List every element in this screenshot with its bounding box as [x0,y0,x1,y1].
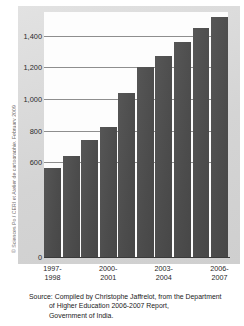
x-axis-line [44,257,230,258]
bar-series [44,6,228,257]
x-axis-tick: 2003-2004 [141,265,187,282]
source-line-3: Government of India. [29,311,241,320]
credit-strip: © Sciences Po / CERI et Atelier de carto… [0,0,16,326]
x-axis-tick-bottom: 1998 [30,274,76,283]
x-axis-tick: 2000-2001 [85,265,131,282]
source-line-2: of Higher Education 2006-2007 Report, [29,301,241,310]
x-axis-tick: 1997-1998 [30,265,76,282]
bar [193,28,210,257]
y-axis-tick-0: 0 [16,253,42,262]
bar [100,127,117,257]
bar [118,93,135,257]
bar [81,140,98,257]
y-axis-tick-1000: 1,000 [16,94,42,103]
bar [155,56,172,257]
y-axis-labels: 06008001,0001,2001,400 [18,6,42,264]
bar [211,17,228,257]
bar [137,67,154,257]
source-caption: Source: Compiled by Christophe Jaffrelot… [29,292,241,320]
chart-figure: © Sciences Po / CERI et Atelier de carto… [0,0,244,326]
y-axis-tick-800: 800 [16,126,42,135]
x-axis-tick-bottom: 2007 [197,274,243,283]
bar [44,168,61,257]
y-axis-tick-600: 600 [16,158,42,167]
x-axis-tick-bottom: 2001 [85,274,131,283]
bar [63,156,80,257]
x-axis-tick: 2006-2007 [197,265,243,282]
bar [174,42,191,257]
x-axis-tick-bottom: 2004 [141,274,187,283]
chart-panel: 06008001,0001,2001,400 [18,6,240,264]
source-line-1: Source: Compiled by Christophe Jaffrelot… [29,292,241,301]
y-axis-tick-1400: 1,400 [16,31,42,40]
y-axis-tick-1200: 1,200 [16,63,42,72]
x-axis-labels: 1997-19982000-20012003-20042006-2007 [18,265,240,287]
